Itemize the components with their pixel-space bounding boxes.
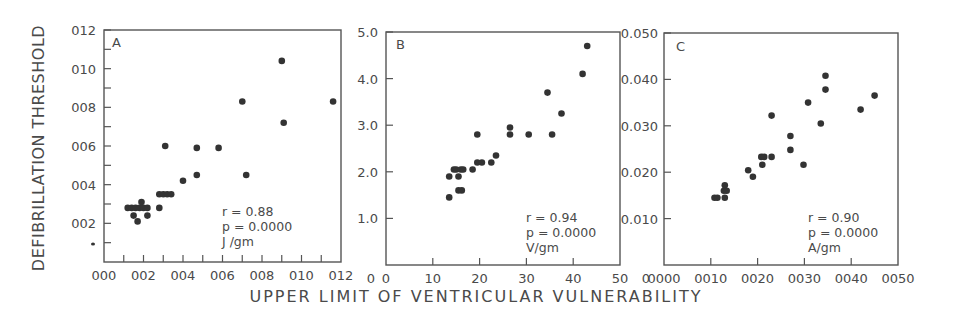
data-point — [479, 159, 486, 166]
data-point — [525, 131, 532, 138]
x-tick-label: 0030 — [788, 271, 821, 286]
y-tick-label: 0.010 — [621, 212, 658, 227]
data-point — [469, 166, 476, 173]
y-tick-label: 4.0 — [357, 72, 378, 87]
y-origin-label-b: 0 — [367, 271, 375, 286]
x-tick-label: 010 — [289, 268, 314, 283]
p-value: p = 0.0000 — [222, 219, 292, 234]
x-tick-label: 20 — [471, 271, 488, 286]
x-tick-label: 0020 — [741, 271, 774, 286]
data-point — [280, 120, 287, 127]
x-tick-label: 0010 — [694, 271, 727, 286]
data-point — [194, 172, 201, 179]
data-point — [194, 145, 201, 152]
y-tick-label: 0.030 — [621, 119, 658, 134]
x-tick-label: 0050 — [881, 271, 914, 286]
y-tick-label: 1.0 — [357, 211, 378, 226]
y-tick-label: 3.0 — [357, 118, 378, 133]
data-point — [714, 194, 721, 201]
y-tick-label: 006 — [71, 139, 96, 154]
data-point — [455, 173, 462, 180]
scatter-panels: 002004006008010012000002004006008010012A… — [0, 0, 954, 320]
data-point — [144, 205, 151, 212]
data-point — [761, 154, 768, 161]
data-point — [493, 152, 500, 159]
x-tick-label: 002 — [131, 268, 156, 283]
x-tick-label: 008 — [250, 268, 275, 283]
data-point — [144, 212, 151, 219]
r-value: r = 0.94 — [526, 210, 577, 225]
panel-b: 1.02.03.04.05.001020304050Br = 0.94p = 0… — [357, 25, 628, 286]
units-label: V/gm — [526, 240, 559, 255]
data-point — [871, 92, 878, 99]
data-point — [722, 182, 729, 189]
data-point — [722, 194, 729, 201]
data-point — [857, 106, 864, 113]
data-point — [549, 131, 556, 138]
data-point — [822, 72, 829, 79]
x-tick-label: 0 — [382, 271, 390, 286]
data-point — [768, 112, 775, 119]
data-point — [805, 99, 812, 106]
data-point — [759, 162, 766, 169]
data-point — [584, 43, 591, 50]
x-tick-label: 50 — [612, 271, 629, 286]
units-label: A/gm — [808, 240, 841, 255]
data-point — [507, 131, 514, 138]
data-point — [507, 124, 514, 131]
r-value: r = 0.90 — [808, 210, 859, 225]
data-point — [488, 159, 495, 166]
x-tick-label: 006 — [210, 268, 235, 283]
x-tick-label: 0040 — [835, 271, 868, 286]
y-tick-label: 0.050 — [621, 26, 658, 41]
data-point — [750, 174, 757, 181]
panel-label: B — [396, 37, 405, 52]
x-tick-label: 0000 — [647, 271, 680, 286]
data-point — [787, 147, 794, 154]
data-point — [239, 98, 246, 105]
p-value: p = 0.0000 — [808, 225, 878, 240]
data-point — [768, 154, 775, 161]
data-point — [330, 98, 337, 105]
x-tick-label: 012 — [329, 268, 354, 283]
data-point — [800, 162, 807, 169]
panel-c: 0.0100.0200.0300.0400.050000000100020003… — [621, 26, 915, 286]
data-point — [243, 172, 250, 179]
x-tick-label: 40 — [565, 271, 582, 286]
y-tick-label: 2.0 — [357, 165, 378, 180]
x-axis-title: UPPER LIMIT OF VENTRICULAR VULNERABILITY — [249, 287, 702, 306]
x-tick-label: 004 — [171, 268, 196, 283]
y-tick-label: 002 — [71, 216, 96, 231]
data-point — [446, 173, 453, 180]
units-label: J /gm — [221, 234, 254, 249]
r-value: r = 0.88 — [222, 204, 273, 219]
data-point — [215, 145, 222, 152]
y-axis-title: DEFIBRILLATION THRESHOLD — [29, 25, 48, 271]
data-point — [446, 194, 453, 201]
figure: 002004006008010012000002004006008010012A… — [0, 0, 954, 320]
y-tick-label: 008 — [71, 100, 96, 115]
x-tick-label: 30 — [518, 271, 535, 286]
y-tick-label: 0.020 — [621, 165, 658, 180]
y-tick-label: 004 — [71, 178, 96, 193]
data-point — [138, 199, 145, 206]
data-point — [460, 166, 467, 173]
data-point — [474, 131, 481, 138]
x-tick-label: 000 — [92, 268, 117, 283]
panel-label: A — [112, 35, 121, 50]
data-point — [180, 178, 187, 185]
y-tick-label: 0.040 — [621, 72, 658, 87]
data-point — [156, 205, 163, 212]
p-value: p = 0.0000 — [526, 225, 596, 240]
data-point — [787, 133, 794, 140]
data-point — [818, 120, 825, 127]
data-point — [279, 58, 286, 65]
data-point — [745, 167, 752, 174]
data-point — [459, 187, 466, 194]
data-point — [558, 110, 565, 117]
data-point — [162, 143, 169, 150]
data-point — [168, 191, 175, 198]
y-tick-label: 010 — [71, 62, 96, 77]
data-point — [134, 218, 141, 225]
y-tick-label: 5.0 — [357, 25, 378, 40]
